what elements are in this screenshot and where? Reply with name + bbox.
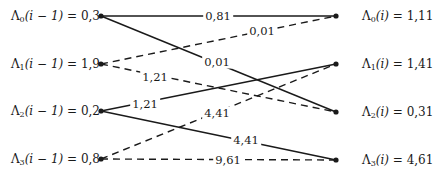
edge-label-l2-r3: 4,41 bbox=[231, 134, 261, 147]
edge-label-l0-r0: 0,81 bbox=[203, 10, 233, 23]
lambda-argument: (i) bbox=[376, 57, 389, 71]
edge-label-l3-r1: 4,41 bbox=[202, 107, 232, 120]
lambda-argument: (i) bbox=[376, 9, 389, 23]
lambda-argument: (i − 1) bbox=[25, 57, 64, 71]
right-label-2: Λ2(i) = 0,31 bbox=[362, 105, 433, 123]
edge-label-l1-r2: 1,21 bbox=[140, 71, 170, 84]
edge-label-l2-r1: 1,21 bbox=[130, 98, 160, 111]
metric-value: 1,41 bbox=[407, 57, 434, 71]
lambda-argument: (i) bbox=[376, 105, 389, 119]
edge-label-l1-r0: 0,01 bbox=[247, 25, 277, 38]
lambda-symbol: Λ bbox=[11, 104, 20, 118]
metric-value: 0,3 bbox=[81, 9, 100, 23]
right-node-1 bbox=[333, 61, 338, 66]
right-node-0 bbox=[333, 13, 338, 18]
metric-value: 0,31 bbox=[407, 105, 434, 119]
left-label-1: Λ1(i − 1) = 1,9 bbox=[11, 57, 100, 75]
left-label-3: Λ3(i − 1) = 0,8 bbox=[11, 152, 100, 170]
metric-value: 0,8 bbox=[81, 152, 100, 166]
lambda-argument: (i − 1) bbox=[25, 152, 64, 166]
lambda-symbol: Λ bbox=[11, 152, 20, 166]
metric-value: 0,2 bbox=[81, 104, 100, 118]
edge-label-l0-r2: 0,01 bbox=[202, 56, 232, 69]
right-label-1: Λ1(i) = 1,41 bbox=[362, 57, 433, 75]
edge-label-l3-r3: 9,61 bbox=[213, 154, 243, 167]
left-label-2: Λ2(i − 1) = 0,2 bbox=[11, 104, 100, 122]
lambda-argument: (i − 1) bbox=[25, 104, 64, 118]
lambda-symbol: Λ bbox=[362, 153, 371, 167]
right-label-3: Λ3(i) = 4,61 bbox=[362, 153, 433, 171]
lambda-symbol: Λ bbox=[362, 9, 371, 23]
lambda-symbol: Λ bbox=[362, 57, 371, 71]
lambda-argument: (i − 1) bbox=[25, 9, 64, 23]
metric-value: 1,9 bbox=[81, 57, 100, 71]
lambda-symbol: Λ bbox=[11, 9, 20, 23]
right-node-3 bbox=[333, 157, 338, 162]
metric-value: 4,61 bbox=[407, 153, 434, 167]
lambda-argument: (i) bbox=[376, 153, 389, 167]
left-label-0: Λ0(i − 1) = 0,3 bbox=[11, 9, 100, 27]
lambda-symbol: Λ bbox=[362, 105, 371, 119]
right-node-2 bbox=[333, 109, 338, 114]
lambda-symbol: Λ bbox=[11, 57, 20, 71]
right-label-0: Λ0(i) = 1,11 bbox=[362, 9, 433, 27]
metric-value: 1,11 bbox=[407, 9, 434, 23]
